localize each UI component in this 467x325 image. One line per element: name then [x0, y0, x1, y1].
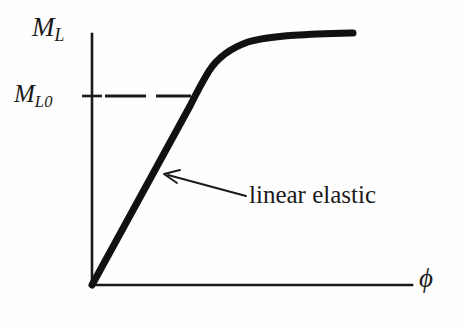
y-axis-label: ML [32, 14, 65, 45]
annotation-arrow-shaft [168, 175, 246, 196]
moment-rotation-figure: ML ML0 ϕ linear elastic [0, 0, 467, 325]
y-axis-label-main: M [32, 12, 55, 42]
y-axis-label-subscript: L [55, 25, 65, 45]
linear-elastic-annotation-label: linear elastic [249, 182, 376, 207]
threshold-label-main: M [14, 80, 35, 107]
plot-canvas [0, 0, 467, 325]
annotation-arrow-group [164, 170, 246, 196]
axes-group [92, 34, 412, 285]
threshold-value-label: ML0 [14, 81, 53, 110]
threshold-label-subscript: L0 [35, 92, 53, 111]
curve-group [92, 33, 353, 285]
moment-rotation-curve [92, 33, 353, 285]
x-axis-label: ϕ [419, 265, 433, 292]
